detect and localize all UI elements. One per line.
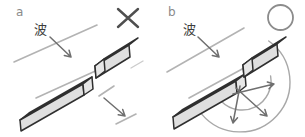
transmitted-direction-arrow-icon <box>104 98 125 116</box>
x-mark-icon <box>118 9 138 27</box>
spreading-direction-arrows <box>231 82 274 123</box>
barrier-bar-left <box>20 77 93 131</box>
wave-direction-arrow-icon <box>198 37 219 57</box>
panel-a: a 波 <box>0 0 152 137</box>
circle-mark-icon <box>268 5 293 30</box>
transmitted-wave-segments <box>99 86 136 124</box>
wave-direction-arrow-icon <box>50 37 71 57</box>
panel-a-drawing <box>0 0 152 137</box>
panel-b: b 波 <box>152 0 305 137</box>
barrier-bar-right <box>243 37 286 77</box>
figure-canvas: a 波 <box>0 0 305 137</box>
wavefront-line <box>14 25 97 62</box>
wavefront-line <box>167 28 244 72</box>
barrier-bar-right <box>95 38 138 78</box>
panel-b-drawing <box>152 0 305 137</box>
wavefront-segment <box>99 86 114 96</box>
wavefront-line-faint <box>131 61 143 68</box>
